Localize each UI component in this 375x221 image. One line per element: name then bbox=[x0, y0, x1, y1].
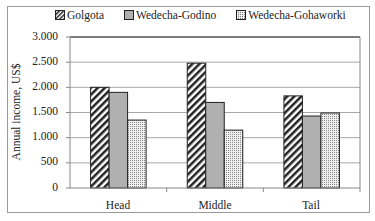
plot-area bbox=[0, 0, 375, 221]
bar bbox=[187, 63, 206, 188]
bar bbox=[224, 130, 243, 188]
bars bbox=[91, 63, 340, 188]
x-tick-middle: Middle bbox=[198, 199, 231, 211]
bar bbox=[109, 92, 128, 188]
bar bbox=[91, 87, 110, 188]
x-tick-tail: Tail bbox=[302, 199, 320, 211]
bar bbox=[321, 113, 340, 188]
bar bbox=[206, 102, 225, 188]
x-tick-head: Head bbox=[106, 199, 130, 211]
bar bbox=[302, 116, 321, 188]
bar bbox=[128, 120, 147, 188]
bar bbox=[284, 96, 303, 188]
